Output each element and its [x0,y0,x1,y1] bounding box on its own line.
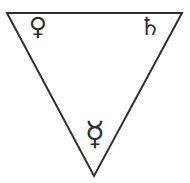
venus-symbol-icon: ♀ [26,14,50,39]
diagram-canvas: ♀ ♄ ☿ [0,0,190,183]
mercury-symbol-icon: ☿ [82,117,108,150]
saturn-symbol-icon: ♄ [138,14,162,39]
